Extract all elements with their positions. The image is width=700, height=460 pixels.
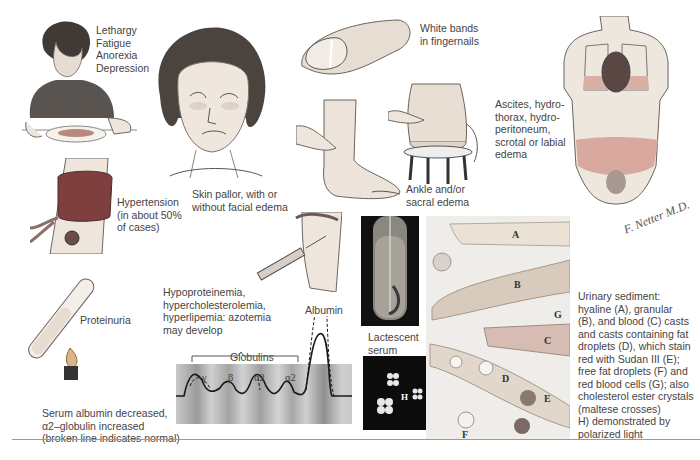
svg-text:C: C bbox=[544, 335, 551, 346]
fingernail-illustration bbox=[298, 16, 414, 84]
caption-line: in fingernails bbox=[420, 35, 479, 48]
albumin-label: Albumin bbox=[305, 304, 343, 317]
caption-line: Serum albumin decreased, bbox=[42, 407, 180, 420]
serum-tube-icon bbox=[361, 216, 419, 326]
caption-line: red blood cells (G); also bbox=[578, 378, 694, 391]
fraction-beta: β bbox=[228, 372, 233, 385]
sediment-casts-icon: A B G C D E F bbox=[426, 216, 570, 440]
caption-line: cholesterol ester crystals bbox=[578, 390, 694, 403]
caption-line: hyaline (A), granular bbox=[578, 303, 694, 316]
caption-line: sacral edema bbox=[406, 196, 469, 209]
caption-line: White bands bbox=[420, 22, 479, 35]
caption-line: Lethargy bbox=[96, 24, 149, 37]
caption-line: hypercholesterolemia, bbox=[163, 299, 271, 312]
sediment-label-h: H bbox=[401, 392, 408, 402]
caption-line: droplets (D), which stain bbox=[578, 340, 694, 353]
fraction-alpha2-a: α2 bbox=[254, 372, 265, 385]
caption-line: Skin pallor, with or bbox=[192, 188, 288, 201]
caption-hypertension: Hypertension (in about 50% of cases) bbox=[117, 196, 182, 234]
caption-line: Hypoproteinemia, bbox=[163, 286, 271, 299]
torso-ascites-illustration bbox=[556, 16, 676, 206]
caption-sediment: Urinary sediment: hyaline (A), granular … bbox=[578, 290, 694, 440]
caption-line: Anorexia bbox=[96, 49, 149, 62]
urinary-sediment-panel: A B G C D E F bbox=[426, 216, 570, 440]
caption-line: serum bbox=[368, 344, 419, 357]
caption-line: H) demonstrated by bbox=[578, 415, 694, 428]
svg-text:G: G bbox=[554, 309, 562, 320]
blood-draw-illustration bbox=[246, 212, 342, 292]
caption-line: and casts containing fat bbox=[578, 328, 694, 341]
caption-line: α2–globulin increased bbox=[42, 420, 180, 433]
caption-line: (B), and blood (C) casts bbox=[578, 315, 694, 328]
caption-line: (in about 50% bbox=[117, 209, 182, 222]
caption-proteinuria: Proteinuria bbox=[80, 314, 131, 327]
sacral-edema-illustration bbox=[388, 80, 480, 186]
caption-line: Hypertension bbox=[117, 196, 182, 209]
fraction-alpha2-b: α2 bbox=[285, 372, 296, 385]
caption-nails: White bands in fingernails bbox=[420, 22, 479, 47]
caption-line: free fat droplets (F) and bbox=[578, 365, 694, 378]
caption-edema-ankle: Ankle and/or sacral edema bbox=[406, 183, 469, 208]
svg-text:A: A bbox=[512, 229, 520, 240]
caption-line: Ankle and/or bbox=[406, 183, 469, 196]
caption-line: red with Sudan III (E); bbox=[578, 353, 694, 366]
caption-line: (maltese crosses) bbox=[578, 403, 694, 416]
pale-face-illustration bbox=[150, 26, 275, 178]
caption-line: Urinary sediment: bbox=[578, 290, 694, 303]
caption-lethargy: Lethargy Fatigue Anorexia Depression bbox=[96, 24, 149, 74]
caption-line: Lactescent bbox=[368, 331, 419, 344]
caption-line: Fatigue bbox=[96, 37, 149, 50]
caption-line: of cases) bbox=[117, 221, 182, 234]
caption-line: Depression bbox=[96, 62, 149, 75]
svg-text:D: D bbox=[502, 373, 509, 384]
svg-text:E: E bbox=[544, 393, 551, 404]
bp-cuff-illustration bbox=[30, 158, 120, 254]
bottom-divider bbox=[12, 439, 700, 440]
test-tube-flame-illustration bbox=[20, 276, 100, 380]
svg-text:B: B bbox=[514, 279, 521, 290]
caption-pallor: Skin pallor, with or without facial edem… bbox=[192, 188, 288, 213]
fraction-gamma: γ bbox=[202, 372, 207, 385]
caption-lactescent: Lactescent serum bbox=[368, 331, 419, 356]
lactescent-serum-panel bbox=[361, 216, 419, 326]
